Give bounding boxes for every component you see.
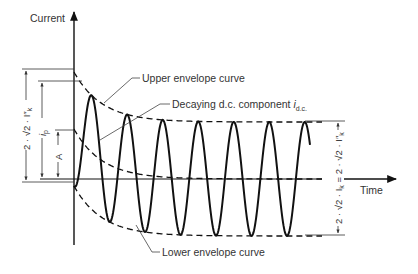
- upper-envelope-label: Upper envelope curve: [142, 72, 245, 84]
- lower-envelope-label: Lower envelope curve: [162, 246, 265, 258]
- dc-component-curve: [74, 129, 322, 179]
- short-circuit-current-diagram: Current Time Upper envelope curve Decayi…: [0, 0, 418, 274]
- outer-dim-label: 2 · √2 · I″k: [21, 107, 33, 150]
- x-axis-label: Time: [360, 184, 383, 196]
- right-dim-label: 2 · √2 · Ik = 2 · √2 · I″k: [333, 132, 345, 224]
- upper-envelope-leader: [104, 78, 140, 103]
- a-dim-label: A: [53, 153, 64, 160]
- peak-dim-label: ip: [37, 130, 50, 136]
- y-axis-label: Current: [30, 12, 65, 24]
- diagram-canvas: Current Time Upper envelope curve Decayi…: [0, 0, 418, 274]
- dc-label: Decaying d.c. component id.c.: [172, 98, 307, 112]
- current-waveform: [74, 95, 310, 236]
- lower-envelope-leader: [136, 225, 160, 252]
